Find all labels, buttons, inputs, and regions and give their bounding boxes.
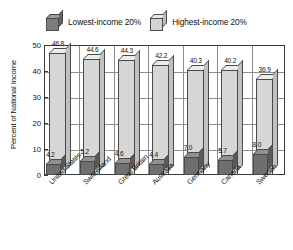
bar-value-label: 46.8 [52, 40, 64, 47]
y-axis-tick-label: 40 [19, 67, 41, 76]
bar-group: 42.24.4 [147, 45, 181, 175]
legend-swatch-cube-icon [46, 14, 63, 31]
bar-group: 40.37.0 [182, 45, 216, 175]
y-axis-tick-mark [44, 175, 48, 176]
bar-group: 40.25.7 [216, 45, 250, 175]
bar-value-label: 40.3 [190, 57, 202, 64]
bar-value-label: 44.3 [121, 47, 133, 54]
bar-value-label: 36.9 [259, 66, 271, 73]
bar-value-label: 4.4 [149, 151, 158, 158]
bar-value-label: 4.6 [115, 150, 124, 157]
bar-value-label: 4.2 [46, 151, 55, 158]
y-axis-tick-label: 50 [19, 41, 41, 50]
legend-label: Highest-income 20% [172, 17, 247, 27]
bar-value-label: 8.0 [253, 141, 262, 148]
legend-entry-lowest-income: Lowest-income 20% [46, 14, 141, 31]
y-axis-tick-label: 0 [19, 171, 41, 180]
y-axis-title: Percent of National Income [9, 45, 18, 165]
bar-value-label: 5.7 [218, 147, 227, 154]
bar-value-label: 40.2 [224, 57, 236, 64]
legend-label: Lowest-income 20% [68, 17, 141, 27]
bar-group: 36.98.0 [251, 45, 285, 175]
bar-value-label: 44.6 [86, 46, 98, 53]
y-axis-tick-label: 20 [19, 119, 41, 128]
legend-swatch-cube-icon [150, 14, 167, 31]
income-distribution-chart: Lowest-income 20% Highest-income 20% Per… [0, 0, 293, 250]
bar-value-label: 7.0 [184, 144, 193, 151]
chart-legend: Lowest-income 20% Highest-income 20% [0, 9, 293, 35]
bar-value-label: 42.2 [155, 52, 167, 59]
y-axis-tick-label: 10 [19, 145, 41, 154]
legend-entry-highest-income: Highest-income 20% [150, 14, 247, 31]
y-axis-tick-label: 30 [19, 93, 41, 102]
